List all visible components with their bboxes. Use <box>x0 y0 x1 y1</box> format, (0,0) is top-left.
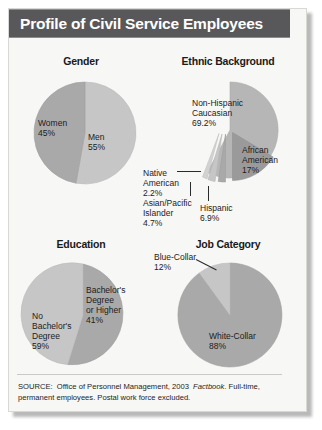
chart-title-education: Education <box>57 238 106 250</box>
pie-label-women: Women 45% <box>38 118 67 138</box>
pie-label-white-collar: White-Collar 88% <box>209 331 256 351</box>
source-text-before: Office of Personnel Management, 2003 <box>57 382 189 391</box>
chart-panel-gender: Gender Women 45% Men 55% <box>14 50 148 190</box>
source-note: SOURCE: Office of Personnel Management, … <box>18 382 290 403</box>
pie-label-native-american: Native American 2.2% <box>143 168 179 198</box>
pie-label-hispanic: Hispanic 6.9% <box>200 203 233 223</box>
pie-label-asian-pacific: Asian/Pacific Islander 4.7% <box>143 198 192 228</box>
footer-divider <box>17 374 282 375</box>
pie-label-blue-collar: Blue-Collar 12% <box>154 252 196 272</box>
infographic-page: Profile of Civil Service Employees Gende… <box>0 0 322 430</box>
pie-label-african-american: African American 17% <box>242 145 278 175</box>
page-title: Profile of Civil Service Employees <box>9 15 263 33</box>
source-prefix: SOURCE: <box>18 382 53 391</box>
header-bar: Profile of Civil Service Employees <box>9 9 290 38</box>
chart-panel-education: Education Bachelor's Degree or Higher 41… <box>14 233 148 373</box>
source-italic-title: Factbook <box>193 382 224 391</box>
pie-label-men: Men 55% <box>88 132 105 152</box>
pie-chart-gender <box>14 50 148 190</box>
chart-title-gender: Gender <box>63 55 99 67</box>
pie-chart-education <box>14 233 148 373</box>
pie-label-no-bachelors: No Bachelor's Degree 59% <box>32 311 71 351</box>
chart-title-ethnic: Ethnic Background <box>182 55 275 67</box>
pie-label-caucasian: Non-Hispanic Caucasian 69.2% <box>192 98 243 128</box>
leader-line-hispanic <box>208 186 209 201</box>
pie-label-bachelors-or-higher: Bachelor's Degree or Higher 41% <box>86 285 125 325</box>
leader-line-asian-pacific <box>190 182 191 196</box>
chart-title-job-category: Job Category <box>196 238 261 250</box>
leader-line-native-american <box>177 171 201 172</box>
